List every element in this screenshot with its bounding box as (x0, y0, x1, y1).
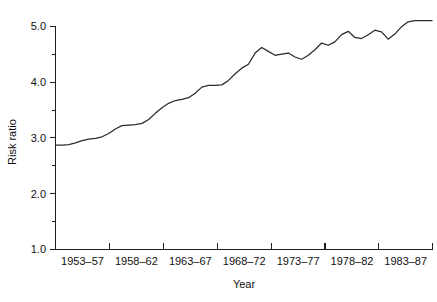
y-tick-label-1: 1.0 (31, 243, 46, 255)
x-axis-ticks (56, 243, 433, 250)
x-tick-label-0: 1953–57 (61, 255, 104, 267)
x-axis-labels: 1953–57 1958–62 1963–67 1968–72 1973–77 … (61, 255, 427, 267)
y-axis-ticks: 1.0 2.0 3.0 4.0 5.0 (31, 20, 56, 255)
y-tick-label-3: 3.0 (31, 132, 46, 144)
x-tick-label-2: 1963–67 (169, 255, 212, 267)
y-axis-title-text: Risk ratio (6, 119, 18, 165)
x-axis-title: Year (233, 278, 256, 290)
x-tick-label-6: 1983–87 (384, 255, 427, 267)
chart-figure: Risk ratio 1.0 2.0 3.0 4.0 5.0 (0, 0, 437, 302)
y-tick-label-5: 5.0 (31, 20, 46, 32)
x-tick-label-4: 1973–77 (277, 255, 320, 267)
x-tick-label-3: 1968–72 (223, 255, 266, 267)
risk-ratio-line-chart: Risk ratio 1.0 2.0 3.0 4.0 5.0 (0, 0, 437, 302)
y-axis-title: Risk ratio (6, 119, 18, 165)
x-tick-label-1: 1958–62 (115, 255, 158, 267)
x-tick-label-5: 1978–82 (331, 255, 374, 267)
risk-ratio-series-line (56, 21, 433, 145)
y-tick-label-4: 4.0 (31, 76, 46, 88)
y-tick-label-2: 2.0 (31, 188, 46, 200)
